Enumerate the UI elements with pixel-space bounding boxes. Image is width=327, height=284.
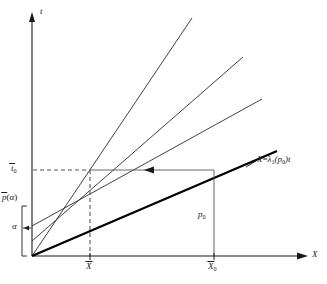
x-tick-label-x0-bar: X0 [208,262,217,271]
eq-arg-sub: 0 [282,159,285,165]
alpha-pointer-arrowhead-icon [24,226,29,231]
characteristic-line-second [32,57,243,241]
eq-arg-close: )t [285,154,291,164]
y-axis-label: t [40,7,43,16]
characteristic-equation-label: X=λ1(p0)t [257,155,291,164]
alpha-pointer-group [23,226,31,231]
characteristic-lines-group [32,18,277,256]
x-axis-label: X [312,250,318,259]
figure-canvas [0,0,327,284]
y-tick-label-t0-bar: t0 [11,164,17,173]
y-tick-label-p-bar-alpha: p(α) [2,193,17,202]
p0-label: p0 [198,210,206,219]
x-tick-label-x-bar: X [86,262,92,271]
eq-lambda-sub: 1 [271,159,274,165]
y-tick-label-alpha: α [12,222,17,231]
guide-lines-group [33,167,214,257]
x-axis-arrowhead [297,253,308,260]
left-brace-group [22,206,27,256]
axes-group [29,12,308,260]
characteristics-figure: t X t0 p(α) α X X0 p0 X=λ1(p0)t [0,0,327,284]
characteristic-line-thick-main [32,151,277,256]
eq-arg-open: (p [275,154,283,164]
leftward-arrowhead-icon [144,167,154,174]
p0-interval-brace [22,206,27,256]
y-axis-arrowhead [29,12,35,22]
